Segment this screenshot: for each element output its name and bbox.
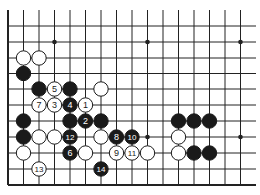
- move-number-label: 5: [52, 84, 57, 94]
- move-number-label: 1: [83, 100, 88, 110]
- white-stone: [16, 51, 30, 65]
- white-stone: [171, 146, 185, 160]
- white-stone: [32, 130, 46, 144]
- move-number-label: 9: [114, 148, 119, 158]
- black-stone: [171, 114, 185, 128]
- white-stone: [94, 130, 108, 144]
- black-stone: [16, 114, 30, 128]
- star-point: [52, 40, 57, 45]
- white-stone: [32, 51, 46, 65]
- move-number-label: 6: [67, 148, 72, 158]
- move-number-label: 2: [83, 116, 88, 126]
- move-number-label: 13: [35, 165, 44, 174]
- move-number-label: 10: [128, 133, 137, 142]
- white-stone: [47, 130, 61, 144]
- move-number-label: 11: [128, 149, 137, 158]
- white-stone: [78, 146, 92, 160]
- move-number-label: 3: [52, 100, 57, 110]
- star-point: [238, 40, 243, 45]
- black-stone: [63, 114, 77, 128]
- black-stone: [202, 114, 216, 128]
- go-board-diagram: 5734121281069111314: [0, 0, 260, 195]
- move-number-label: 12: [66, 133, 75, 142]
- star-point: [145, 40, 150, 45]
- black-stone: [32, 82, 46, 96]
- black-stone: [202, 146, 216, 160]
- black-stone: [187, 114, 201, 128]
- move-number-label: 8: [114, 132, 119, 142]
- black-stone: [16, 130, 30, 144]
- white-stone: [94, 82, 108, 96]
- black-stone: [94, 114, 108, 128]
- black-stone: [16, 66, 30, 80]
- star-point: [145, 135, 150, 140]
- move-number-label: 4: [67, 100, 72, 110]
- white-stone: [171, 130, 185, 144]
- black-stone: [63, 82, 77, 96]
- white-stone: [140, 146, 154, 160]
- move-number-label: 7: [36, 100, 41, 110]
- white-stone: [16, 146, 30, 160]
- move-number-label: 14: [97, 165, 106, 174]
- black-stone: [187, 146, 201, 160]
- star-point: [238, 135, 243, 140]
